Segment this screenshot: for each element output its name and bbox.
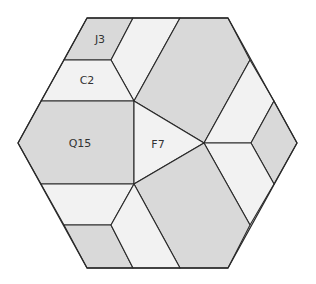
piece-label-f7: F7 (151, 138, 164, 151)
piece-label-j3: J3 (94, 33, 105, 46)
piece-label-q15: Q15 (69, 137, 92, 150)
hexagon-diagram: J3C2Q15F7 (0, 0, 316, 284)
piece-label-c2: C2 (80, 74, 95, 87)
